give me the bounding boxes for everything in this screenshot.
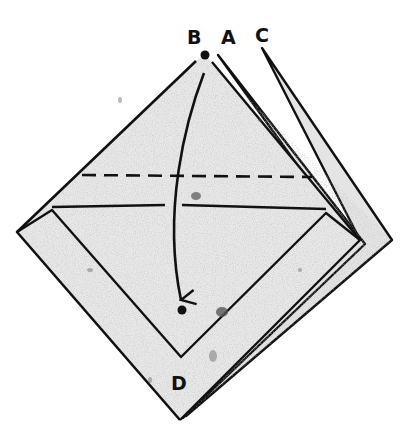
- point-b-dot: [201, 51, 210, 60]
- label-b: B: [187, 28, 201, 47]
- label-c: C: [255, 26, 269, 45]
- target-dot: [178, 306, 187, 315]
- front-layer-b: [17, 55, 392, 420]
- label-a: A: [221, 28, 236, 47]
- diagram-canvas: [0, 0, 404, 426]
- label-d: D: [171, 374, 187, 393]
